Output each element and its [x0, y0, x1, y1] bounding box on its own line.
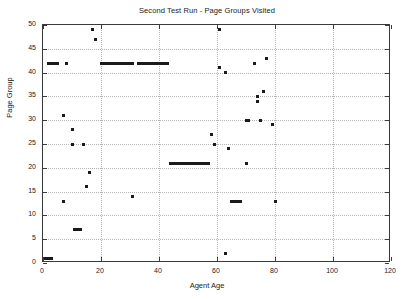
x-axis-tick: [333, 257, 334, 261]
y-tick-label: 35: [0, 91, 36, 98]
data-point: [50, 257, 53, 260]
y-axis-tick: [43, 120, 47, 121]
y-axis-tick-right: [385, 120, 389, 121]
y-tick-label: 45: [0, 44, 36, 51]
y-tick-label: 10: [0, 210, 36, 217]
y-axis-tick-right: [385, 25, 389, 26]
y-axis-tick-right: [385, 49, 389, 50]
x-axis-tick-top: [391, 25, 392, 29]
y-axis-tick-right: [385, 168, 389, 169]
y-axis-tick: [43, 73, 47, 74]
y-axis-tick: [43, 263, 47, 264]
data-point: [256, 100, 259, 103]
y-axis-tick-right: [385, 215, 389, 216]
y-axis-tick: [43, 144, 47, 145]
y-tick-label: 20: [0, 163, 36, 170]
data-point: [274, 200, 277, 203]
scatter-plot-figure: Second Test Run - Page Groups Visited Pa…: [0, 0, 414, 299]
data-point: [71, 143, 74, 146]
y-axis-tick: [43, 215, 47, 216]
gridline-horizontal: [43, 73, 389, 74]
x-axis-tick: [391, 257, 392, 261]
chart-title: Second Test Run - Page Groups Visited: [0, 6, 414, 15]
gridline-vertical: [333, 25, 334, 261]
data-point: [227, 147, 230, 150]
x-axis-tick: [275, 257, 276, 261]
x-tick-label: 40: [143, 267, 173, 274]
x-tick-label: 20: [85, 267, 115, 274]
gridline-horizontal: [43, 96, 389, 97]
data-point: [256, 95, 259, 98]
x-axis-tick-top: [43, 25, 44, 29]
data-point: [218, 28, 221, 31]
x-axis-tick-top: [333, 25, 334, 29]
data-point: [247, 119, 250, 122]
y-tick-label: 40: [0, 68, 36, 75]
data-point: [224, 252, 227, 255]
data-point: [82, 143, 85, 146]
gridline-horizontal: [43, 168, 389, 169]
y-axis-tick: [43, 239, 47, 240]
gridline-vertical: [101, 25, 102, 261]
y-tick-label: 50: [0, 20, 36, 27]
plot-area: [42, 24, 390, 262]
data-point: [271, 123, 274, 126]
gridline-horizontal: [43, 239, 389, 240]
data-point: [56, 62, 59, 65]
y-tick-label: 30: [0, 115, 36, 122]
gridline-vertical: [217, 25, 218, 261]
data-point: [262, 90, 265, 93]
x-axis-tick: [159, 257, 160, 261]
y-tick-label: 0: [0, 258, 36, 265]
y-axis-tick-right: [385, 192, 389, 193]
data-point: [131, 62, 134, 65]
y-axis-tick-right: [385, 144, 389, 145]
y-axis-tick: [43, 49, 47, 50]
gridline-horizontal: [43, 144, 389, 145]
y-axis-tick: [43, 96, 47, 97]
x-tick-label: 60: [201, 267, 231, 274]
data-point: [131, 195, 134, 198]
y-axis-tick-right: [385, 239, 389, 240]
data-point: [91, 28, 94, 31]
data-point: [207, 162, 210, 165]
gridline-horizontal: [43, 120, 389, 121]
data-point: [259, 119, 262, 122]
y-axis-tick-right: [385, 96, 389, 97]
x-tick-label: 0: [27, 267, 57, 274]
data-point: [218, 66, 221, 69]
data-point: [88, 171, 91, 174]
data-point: [62, 114, 65, 117]
x-tick-label: 80: [259, 267, 289, 274]
data-point: [94, 38, 97, 41]
gridline-horizontal: [43, 192, 389, 193]
gridline-horizontal: [43, 215, 389, 216]
y-axis-tick-right: [385, 263, 389, 264]
data-point: [166, 62, 169, 65]
x-axis-tick-top: [159, 25, 160, 29]
data-point: [239, 200, 242, 203]
gridline-vertical: [159, 25, 160, 261]
x-axis-tick: [101, 257, 102, 261]
y-tick-label: 15: [0, 187, 36, 194]
x-axis-tick-top: [275, 25, 276, 29]
y-tick-label: 5: [0, 234, 36, 241]
data-point: [85, 185, 88, 188]
y-axis-tick: [43, 192, 47, 193]
data-point: [65, 62, 68, 65]
data-point: [245, 162, 248, 165]
x-tick-label: 120: [375, 267, 405, 274]
data-point: [253, 62, 256, 65]
data-point: [71, 128, 74, 131]
gridline-vertical: [275, 25, 276, 261]
gridline-horizontal: [43, 49, 389, 50]
data-point: [79, 228, 82, 231]
x-axis-title: Agent Age: [0, 281, 414, 290]
data-point: [265, 57, 268, 60]
data-point: [213, 143, 216, 146]
y-axis-tick-right: [385, 73, 389, 74]
data-point: [210, 133, 213, 136]
x-axis-tick-top: [101, 25, 102, 29]
x-tick-label: 100: [317, 267, 347, 274]
x-axis-tick: [217, 257, 218, 261]
